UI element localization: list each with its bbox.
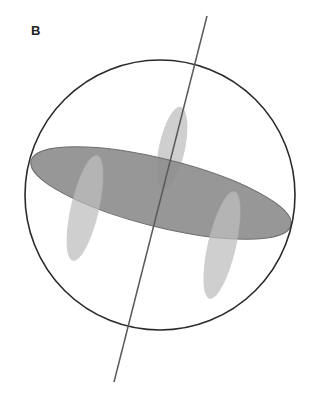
sphere-diagram	[0, 0, 310, 404]
